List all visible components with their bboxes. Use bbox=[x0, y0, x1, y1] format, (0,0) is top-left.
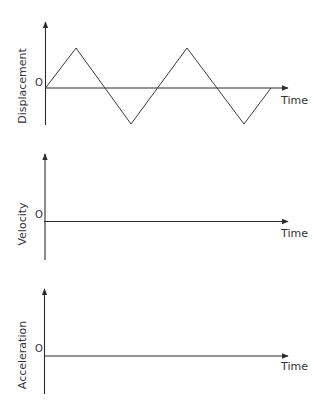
displacement-graph: O Time Displacement bbox=[16, 22, 308, 125]
acceleration-ylabel: Acceleration bbox=[16, 321, 29, 389]
displacement-origin-label: O bbox=[35, 77, 43, 88]
acceleration-graph: O Time Acceleration bbox=[16, 289, 308, 394]
velocity-graph: O Time Velocity bbox=[16, 154, 308, 260]
displacement-ylabel: Displacement bbox=[16, 48, 29, 124]
motion-graphs-diagram: O Time Displacement O Time Velocity O Ti… bbox=[0, 0, 319, 404]
displacement-xlabel: Time bbox=[280, 94, 308, 107]
displacement-triangle-wave bbox=[46, 48, 272, 124]
velocity-xlabel: Time bbox=[280, 227, 308, 240]
velocity-ylabel: Velocity bbox=[16, 202, 29, 246]
acceleration-xlabel: Time bbox=[280, 360, 308, 373]
velocity-origin-label: O bbox=[35, 209, 43, 220]
acceleration-origin-label: O bbox=[35, 343, 43, 354]
